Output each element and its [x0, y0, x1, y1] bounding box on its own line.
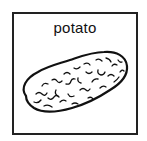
potato-icon	[14, 14, 136, 133]
pictogram-card: potato	[12, 12, 138, 135]
